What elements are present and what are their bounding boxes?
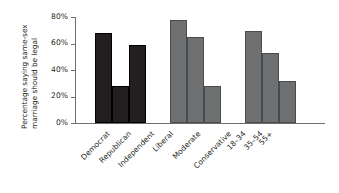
y-axis-line [75,17,76,124]
y-tick-label-0: 0% [56,118,68,127]
y-axis-title-line-1: Percentage saying same-sex [20,24,30,129]
bar-conservative [204,86,221,123]
y-tick-label-2: 40% [51,65,68,74]
bar-age-18-34 [245,31,262,124]
bar-democrat [95,33,112,123]
bar-independent [129,45,146,123]
y-tick-mark-1 [71,97,76,98]
bar-moderate [187,37,204,123]
y-tick-mark-4 [71,17,76,18]
bar-chart: Percentage saying same-sex marriage shou… [0,0,339,193]
x-axis-labels: Democrat Republican Independent Liberal … [75,124,339,193]
y-axis-title-line-2: marriage should be legal [30,38,40,129]
bar-age-35-54 [262,53,279,123]
y-tick-mark-2 [71,70,76,71]
plot-area: 0% 20% 40% 60% 80% [75,17,325,124]
y-tick-label-4: 80% [51,12,68,21]
bar-age-55-plus [279,81,296,123]
bar-liberal [170,20,187,123]
bar-republican [112,86,129,123]
y-tick-label-1: 20% [51,91,68,100]
y-tick-label-3: 60% [51,38,68,47]
y-axis-title: Percentage saying same-sex marriage shou… [0,0,44,135]
y-tick-mark-3 [71,44,76,45]
